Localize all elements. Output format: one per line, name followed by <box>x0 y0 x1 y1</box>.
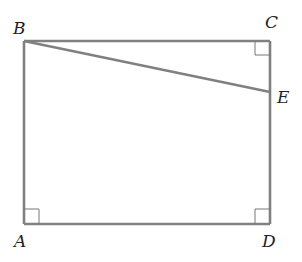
label-A: A <box>12 231 26 251</box>
segment-BE <box>24 41 270 92</box>
label-E: E <box>276 87 290 107</box>
label-B: B <box>12 18 26 38</box>
label-C: C <box>265 12 278 32</box>
right-angle-marker-D <box>255 209 270 224</box>
right-angle-marker-A <box>24 209 39 224</box>
rectangle-diagram: B C E A D <box>0 0 302 262</box>
right-angle-marker-C <box>255 41 270 55</box>
label-D: D <box>261 231 276 251</box>
